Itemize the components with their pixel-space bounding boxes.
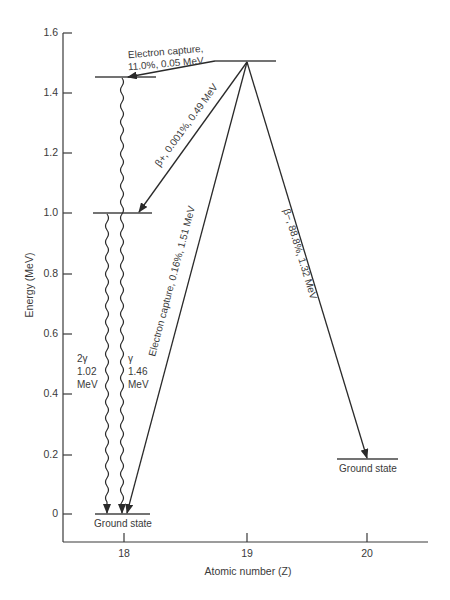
arrow-beta-plus bbox=[139, 62, 247, 212]
label-beta-minus: β−, 88.8%, 1.32 MeV bbox=[281, 207, 319, 300]
y-tick-label: 0.4 bbox=[43, 387, 58, 399]
x-tick-label: 18 bbox=[118, 547, 130, 559]
label-gamma-line1: γ bbox=[128, 353, 133, 364]
y-axis: 0 0.2 0.4 0.6 0.8 1.0 1.2 1.4 1.6 Energy… bbox=[23, 26, 72, 542]
y-tick-label: 0.6 bbox=[43, 327, 58, 339]
y-tick-label: 1.6 bbox=[43, 26, 58, 38]
x-tick-label: 19 bbox=[241, 547, 253, 559]
x-tick-label: 20 bbox=[361, 547, 373, 559]
y-tick-label: 0.2 bbox=[43, 448, 58, 460]
wavy-2-gamma-1.02 bbox=[106, 214, 109, 513]
gamma-transitions bbox=[106, 78, 124, 513]
y-tick-label: 1.2 bbox=[43, 146, 58, 158]
energy-levels: Ground state Ground state bbox=[93, 61, 398, 529]
label-2-gamma-line2: 1.02 bbox=[77, 366, 97, 377]
y-tick-label: 1.0 bbox=[43, 206, 58, 218]
y-tick-label: 0 bbox=[52, 507, 58, 519]
x-axis: 18 19 20 Atomic number (Z) bbox=[63, 533, 428, 577]
label-gamma-line2: 1.46 bbox=[128, 366, 148, 377]
y-axis-label: Energy (MeV) bbox=[23, 253, 35, 318]
label-beta-plus: β+, 0.001%, 0.49 MeV bbox=[152, 81, 220, 168]
annotations: Electron capture, 11.0%, 0.05 MeV β+, 0.… bbox=[77, 43, 319, 390]
x-axis-label: Atomic number (Z) bbox=[205, 565, 292, 577]
label-gamma-line3: MeV bbox=[128, 379, 149, 390]
decay-scheme-diagram: 0 0.2 0.4 0.6 0.8 1.0 1.2 1.4 1.6 Energy… bbox=[0, 0, 450, 600]
label-2-gamma-line1: 2γ bbox=[77, 353, 88, 364]
y-tick-label: 0.8 bbox=[43, 267, 58, 279]
ground-state-label-z20: Ground state bbox=[339, 463, 397, 474]
y-tick-label: 1.4 bbox=[43, 86, 58, 98]
label-electron-capture-016: Electron capture, 0.16%, 1.51 MeV bbox=[146, 204, 197, 357]
ground-state-label-z18: Ground state bbox=[94, 518, 152, 529]
label-2-gamma-line3: MeV bbox=[77, 379, 98, 390]
wavy-gamma-1.46 bbox=[121, 78, 124, 513]
transitions bbox=[127, 61, 367, 513]
